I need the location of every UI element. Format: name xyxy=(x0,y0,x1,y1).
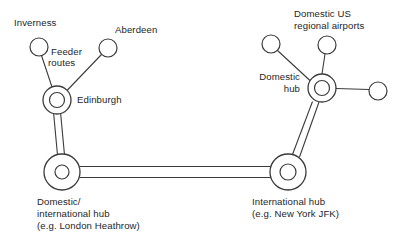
edge-jfk-domestic-hub xyxy=(293,102,320,158)
label-london-hub-line2: international hub xyxy=(37,208,110,220)
label-feeder-routes-line1: Feeder xyxy=(51,46,82,58)
label-edinburgh: Edinburgh xyxy=(77,94,122,106)
node-us-regional-right[interactable] xyxy=(369,82,387,100)
label-domestic-us-line2: regional airports xyxy=(294,20,364,32)
label-feeder-routes-line2: routes xyxy=(48,57,75,69)
node-edinburgh-hub[interactable] xyxy=(43,86,71,114)
node-domestic-hub[interactable] xyxy=(308,74,336,102)
label-aberdeen: Aberdeen xyxy=(115,24,157,36)
edge-edinburgh-london xyxy=(54,112,65,155)
label-jfk-hub-line1: International hub xyxy=(252,196,325,208)
node-inverness[interactable] xyxy=(30,38,48,56)
label-domestic-hub-line1: Domestic xyxy=(236,71,300,83)
label-london-hub-line3: (e.g. London Heathrow) xyxy=(37,220,140,232)
edge-domestic-hub-us-right xyxy=(336,89,370,90)
node-london-heathrow-hub[interactable] xyxy=(44,154,80,190)
label-domestic-us-line1: Domestic US xyxy=(294,8,351,20)
label-domestic-hub-line2: hub xyxy=(236,83,300,95)
edge-london-jfk xyxy=(80,167,271,178)
node-us-regional-top[interactable] xyxy=(318,36,336,54)
label-inverness: Inverness xyxy=(14,17,56,29)
node-us-regional-left[interactable] xyxy=(262,35,280,53)
node-new-york-jfk-hub[interactable] xyxy=(270,154,306,190)
edge-domestic-hub-us-top xyxy=(322,54,325,74)
diagram-canvas: Inverness Aberdeen Feeder routes Edinbur… xyxy=(0,0,402,246)
label-london-hub-line1: Domestic/ xyxy=(37,196,81,208)
node-aberdeen[interactable] xyxy=(99,39,117,57)
label-jfk-hub-line2: (e.g. New York JFK) xyxy=(252,208,339,220)
